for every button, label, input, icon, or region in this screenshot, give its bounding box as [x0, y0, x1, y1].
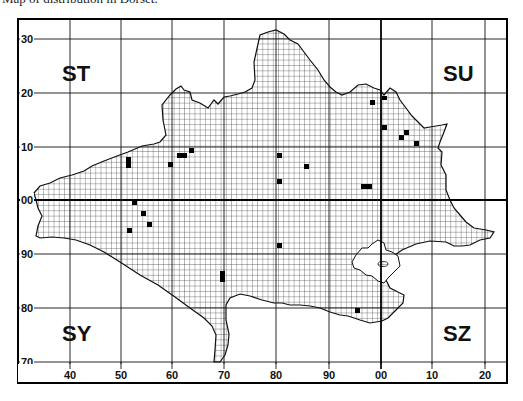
x-tick-60: 60: [166, 369, 178, 381]
x-tick-50: 50: [115, 369, 127, 381]
x-tick-40: 40: [64, 369, 76, 381]
county-dorset: [34, 30, 494, 362]
x-tick-10: 10: [426, 369, 438, 381]
y-tick-30: 30: [21, 33, 33, 45]
y-tick-20: 20: [21, 87, 33, 99]
distribution-map: ST SU SY SZ 30 20 10 00 90 80 70 40 50 6…: [0, 0, 523, 401]
x-axis-labels: 40 50 60 70 80 90 00 10 20: [18, 362, 506, 382]
y-axis-labels: 30 20 10 00 90 80 70: [20, 32, 34, 368]
x-tick-70: 70: [218, 369, 230, 381]
y-tick-90: 90: [21, 248, 33, 260]
x-tick-20: 20: [479, 369, 491, 381]
x-tick-00: 00: [375, 369, 387, 381]
x-tick-90: 90: [323, 369, 335, 381]
square-label-sw: SY: [62, 321, 92, 346]
square-label-se: SZ: [443, 321, 471, 346]
y-tick-80: 80: [21, 302, 33, 314]
y-tick-10: 10: [21, 141, 33, 153]
y-tick-00: 00: [21, 194, 33, 206]
square-label-ne: SU: [443, 61, 474, 86]
square-label-nw: ST: [62, 61, 91, 86]
x-tick-80: 80: [270, 369, 282, 381]
